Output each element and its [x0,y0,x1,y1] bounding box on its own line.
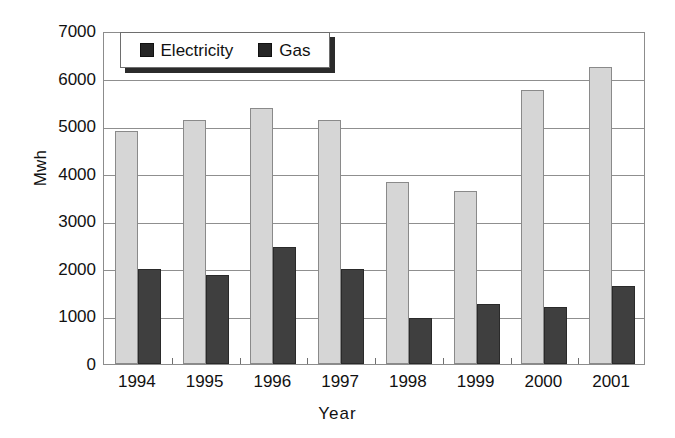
bar-gas-1996 [273,247,296,364]
x-axis-tick-mark [443,358,444,364]
x-axis-tick-mark [172,358,173,364]
bar-electricity-1994 [115,131,138,364]
x-axis-tick-label-2001: 2001 [577,372,645,392]
x-axis-tick-label-2000: 2000 [509,372,577,392]
bar-gas-1998 [409,318,432,364]
gridline [104,80,644,81]
bar-electricity-2000 [521,90,544,364]
bar-gas-2000 [544,307,567,364]
bar-gas-2001 [612,286,635,364]
bar-gas-1995 [206,275,229,364]
y-axis-tick-label: 2000 [18,261,96,278]
x-axis-tick-mark [578,358,579,364]
plot-area [103,32,645,365]
y-axis-tick-label: 6000 [18,71,96,88]
x-axis-tick-label-1995: 1995 [171,372,239,392]
x-axis-tick-label-1999: 1999 [442,372,510,392]
y-axis-tick-label: 5000 [18,118,96,135]
x-axis-title: Year [0,404,675,424]
bar-gas-1997 [341,269,364,364]
y-axis-tick-label: 7000 [18,23,96,40]
x-axis-tick-label-1996: 1996 [238,372,306,392]
bar-electricity-1998 [386,182,409,364]
bar-gas-1999 [477,304,500,364]
bar-chart-figure: Mwh 01000200030004000500060007000 199419… [0,0,675,438]
x-axis-tick-mark [307,358,308,364]
legend-item-electricity[interactable]: Electricity [140,42,234,59]
y-axis-tick-label: 4000 [18,166,96,183]
bar-gas-1994 [138,269,161,364]
legend-label: Electricity [161,42,234,59]
bar-electricity-1996 [250,108,273,364]
y-axis-tick-label: 0 [18,356,96,373]
x-axis-tick-mark [240,358,241,364]
y-axis-tick-label: 3000 [18,213,96,230]
legend-swatch-electricity-icon [140,43,154,57]
y-axis-tick-label: 1000 [18,308,96,325]
x-axis-tick-mark [511,358,512,364]
bar-electricity-1999 [454,191,477,364]
legend-item-gas[interactable]: Gas [258,42,310,59]
bar-electricity-1995 [183,120,206,364]
x-axis-tick-label-1997: 1997 [306,372,374,392]
x-axis-tick-label-1998: 1998 [374,372,442,392]
legend-swatch-gas-icon [258,43,272,57]
x-axis-tick-label-1994: 1994 [103,372,171,392]
bar-electricity-1997 [318,120,341,364]
x-axis-tick-mark [375,358,376,364]
bar-electricity-2001 [589,67,612,364]
legend-label: Gas [279,42,310,59]
chart-legend: ElectricityGas [120,32,330,68]
